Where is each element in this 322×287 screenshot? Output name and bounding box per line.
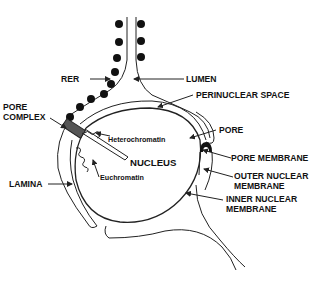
euchromatin-channel <box>82 129 128 160</box>
label-pore: PORE <box>219 125 244 135</box>
label-lumen: LUMEN <box>186 74 217 84</box>
label-rer: RER <box>61 74 80 84</box>
label-outer-nuclear-membrane-2: MEMBRANE <box>234 181 285 191</box>
label-pore-complex-2: COMPLEX <box>3 112 46 122</box>
rer-right-wall <box>136 17 190 112</box>
nuclear-envelope-diagram: RER LUMEN PERINUCLEAR SPACE PORE PORE CO… <box>0 0 322 287</box>
label-perinuclear-space: PERINUCLEAR SPACE <box>196 90 290 100</box>
label-pore-membrane: PORE MEMBRANE <box>231 153 309 163</box>
label-heterochromatin: Heterochromatin <box>108 135 166 144</box>
label-outer-nuclear-membrane-1: OUTER NUCLEAR <box>234 171 309 181</box>
rer-left-wall <box>70 17 127 115</box>
label-pore-complex-1: PORE <box>3 102 28 112</box>
outer-membrane-bottom <box>105 226 236 270</box>
ribosomes <box>66 20 145 121</box>
pore-complex <box>62 119 85 139</box>
label-inner-nuclear-membrane-2: MEMBRANE <box>226 204 277 214</box>
label-nucleus: NUCLEUS <box>130 157 177 168</box>
label-inner-nuclear-membrane-1: INNER NUCLEAR <box>226 194 298 204</box>
label-euchromatin: Euchromatin <box>100 173 144 182</box>
label-lamina: LAMINA <box>9 179 42 189</box>
